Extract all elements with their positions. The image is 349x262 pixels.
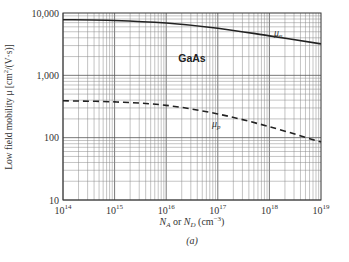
y-tick: 1,000 [37,70,60,81]
x-tick: 1016 [158,203,176,216]
y-tick: 100 [44,132,59,143]
grid-lines [63,13,321,200]
x-tick: 1015 [106,203,124,216]
figure-caption: (a) [186,235,198,247]
y-tick-labels: 10,0001,00010010 [32,8,60,206]
x-tick: 1018 [261,203,279,216]
x-tick: 1019 [313,203,331,216]
mobility-chart: 10,0001,00010010 10141015101610171018101… [0,0,349,262]
y-tick: 10,000 [32,8,60,19]
mu-p-curve [63,101,321,142]
x-tick-labels: 101410151016101710181019 [55,203,331,216]
plot-frame [63,13,321,200]
y-tick: 10 [49,195,59,206]
x-tick: 1014 [55,203,73,216]
material-annotation: GaAs [178,52,206,64]
mu-p-label: μp [211,118,221,131]
y-axis-label: Low field mobility μ [cm2/(V·s)] [2,44,15,170]
x-axis-label: NA or ND (cm−3) [159,215,225,229]
